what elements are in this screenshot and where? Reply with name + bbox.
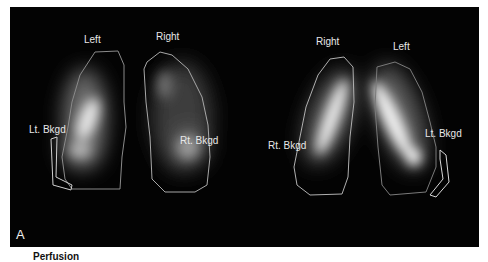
figure-caption: Perfusion — [33, 251, 79, 262]
label-right-anterior: Right — [156, 31, 179, 42]
roi-lt-bkgd-outline-posterior — [430, 150, 449, 197]
label-left-posterior: Left — [393, 41, 410, 52]
label-lt-bkgd-anterior: Lt. Bkgd — [29, 124, 66, 135]
label-rt-bkgd-anterior: Rt. Bkgd — [180, 135, 218, 146]
scan-panel: Left Right Lt. Bkgd Rt. Bkgd Right Left … — [10, 7, 479, 247]
panel-letter: A — [16, 227, 25, 242]
label-right-posterior: Right — [316, 36, 339, 47]
label-rt-bkgd-posterior: Rt. Bkgd — [268, 140, 306, 151]
label-lt-bkgd-posterior: Lt. Bkgd — [425, 128, 462, 139]
label-left-anterior: Left — [84, 34, 101, 45]
